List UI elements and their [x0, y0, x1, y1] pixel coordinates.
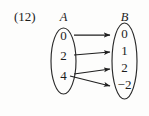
set-b-element-0: 0: [121, 26, 128, 41]
set-a-element-1: 2: [60, 48, 67, 63]
set-label-a: A: [59, 10, 68, 24]
set-b-element-2: 2: [121, 60, 128, 75]
set-label-b: B: [121, 10, 129, 24]
arrow-2-to-1: [74, 52, 110, 55]
set-a-element-0: 0: [60, 28, 67, 43]
arrow-4-to-2: [74, 69, 110, 74]
set-b-element-3: −2: [118, 77, 132, 92]
mapping-diagram-figure: (12) A B 0 2 4 0 1 2 −2: [0, 0, 149, 116]
item-number-label: (12): [14, 9, 36, 24]
set-b-element-1: 1: [121, 43, 128, 58]
arrow-4-to-negative-2: [70, 76, 110, 86]
set-a-element-2: 4: [60, 68, 67, 83]
diagram-canvas: (12) A B 0 2 4 0 1 2 −2: [0, 0, 149, 116]
